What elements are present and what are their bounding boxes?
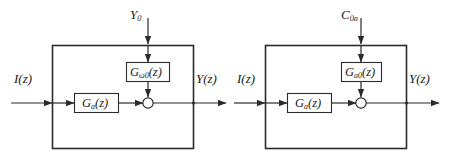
forward-block-symbol: G xyxy=(82,96,91,110)
feed-block-arg: (z) xyxy=(362,65,375,79)
top-input-symbol: C xyxy=(341,7,350,22)
feed-block-symbol: G xyxy=(130,65,139,79)
forward-block-symbol: G xyxy=(295,96,304,110)
top-input-subscript: 0 xyxy=(137,14,141,23)
top-input-label: Y0 xyxy=(130,8,141,23)
output-label: Y(z) xyxy=(196,72,217,85)
forward-block-label: Ga(z) xyxy=(295,97,321,111)
output-arg: (z) xyxy=(416,71,430,86)
feed-block-label: Ga0(z) xyxy=(345,66,375,80)
feed-block-arg: (z) xyxy=(149,65,162,79)
feed-block-subscript: a0 xyxy=(354,71,362,80)
summing-junction xyxy=(143,98,153,108)
input-arg: (z) xyxy=(18,71,32,86)
diagram-canvas: Y0 I(z) Y(z) Gω0(z) Ga(z) xyxy=(0,0,466,163)
summing-junction xyxy=(356,98,366,108)
forward-block-arg: (z) xyxy=(95,96,108,110)
system-boundary-box xyxy=(266,46,407,149)
output-label: Y(z) xyxy=(409,72,430,85)
forward-block-arg: (z) xyxy=(308,96,321,110)
input-label: I(z) xyxy=(237,72,255,85)
feed-block-subscript: ω0 xyxy=(139,71,149,80)
top-input-label: C0a xyxy=(341,8,358,23)
output-arg: (z) xyxy=(203,71,217,86)
block-diagram-panel-left: Y0 I(z) Y(z) Gω0(z) Ga(z) xyxy=(0,0,233,163)
input-arg: (z) xyxy=(241,71,255,86)
wiring-right xyxy=(233,0,466,163)
input-label: I(z) xyxy=(14,72,32,85)
block-diagram-panel-right: C0a I(z) Y(z) Ga0(z) Ga(z) xyxy=(233,0,466,163)
feed-block-symbol: G xyxy=(345,65,354,79)
top-input-subscript: 0a xyxy=(350,14,358,23)
feed-block-label: Gω0(z) xyxy=(130,66,162,80)
system-boundary-box xyxy=(53,46,194,149)
forward-block-label: Ga(z) xyxy=(82,97,108,111)
